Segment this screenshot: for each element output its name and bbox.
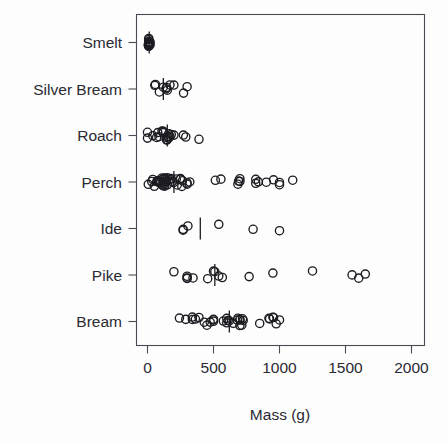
series-silver-bream (151, 78, 192, 100)
series-perch (144, 171, 297, 193)
x-tick-label-1000: 1000 (262, 359, 297, 376)
x-tick-label-1500: 1500 (328, 359, 363, 376)
y-tick-label-perch: Perch (82, 174, 123, 191)
series-smelt (144, 32, 154, 54)
data-point (183, 83, 191, 91)
x-tick-label-500: 500 (201, 359, 227, 376)
data-point (195, 135, 203, 143)
y-axis-category-labels: Smelt Silver Bream Roach Perch Ide Pike … (33, 34, 122, 330)
data-point (269, 269, 277, 277)
data-point (215, 220, 223, 228)
plot-canvas: 0 500 1000 1500 2000 Smelt Silver Bream … (0, 0, 447, 444)
series-ide (179, 218, 284, 240)
y-tick-label-silver-bream: Silver Bream (33, 81, 122, 98)
data-point (217, 175, 225, 183)
x-tick-label-0: 0 (143, 359, 152, 376)
data-point (182, 133, 190, 141)
data-points-layer (143, 32, 369, 333)
data-point (245, 273, 253, 281)
y-tick-label-ide: Ide (100, 220, 122, 237)
x-axis-tick-labels: 0 500 1000 1500 2000 (143, 359, 429, 376)
series-bream (175, 311, 283, 333)
fish-mass-stripchart-figure: 0 500 1000 1500 2000 Smelt Silver Bream … (0, 0, 447, 444)
data-point (289, 176, 297, 184)
data-point (275, 227, 283, 235)
y-axis-ticks (129, 43, 137, 322)
data-point (308, 267, 316, 275)
data-point (348, 271, 356, 279)
data-point (170, 268, 178, 276)
y-tick-label-roach: Roach (77, 127, 122, 144)
data-point (361, 270, 369, 278)
data-point (211, 176, 219, 184)
data-point (249, 225, 257, 233)
series-pike (170, 264, 370, 286)
x-axis-title: Mass (g) (250, 406, 310, 423)
data-point (179, 131, 187, 139)
y-tick-label-bream: Bream (76, 313, 122, 330)
x-axis-ticks (148, 346, 412, 354)
x-tick-label-2000: 2000 (394, 359, 429, 376)
data-point (256, 319, 264, 327)
data-point (204, 275, 212, 283)
y-tick-label-smelt: Smelt (82, 34, 122, 51)
series-roach (143, 125, 203, 147)
y-tick-label-pike: Pike (92, 267, 122, 284)
